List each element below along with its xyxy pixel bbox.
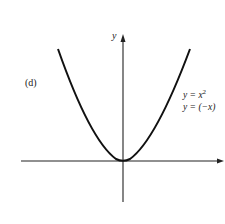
- equation-label-1: y = x2: [183, 87, 206, 100]
- equation-1-exponent: 2: [203, 88, 207, 96]
- y-axis-label: y: [112, 31, 116, 41]
- graph-figure: (d) y y = x2 y = (−x): [0, 0, 225, 224]
- equation-label-2: y = (−x): [183, 102, 215, 112]
- y-axis-arrow-icon: [121, 34, 126, 42]
- x-axis-arrow-icon: [217, 159, 224, 164]
- equation-1-base: y = x: [183, 90, 203, 100]
- parabola-curve: [58, 49, 190, 161]
- panel-label: (d): [25, 78, 37, 88]
